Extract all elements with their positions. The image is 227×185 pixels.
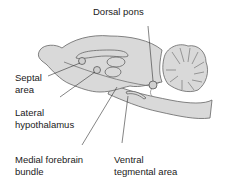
label-vta-line2: tegmental area [114,166,177,178]
label-dorsal-pons: Dorsal pons [93,6,144,18]
label-medial-forebrain-bundle-line1: Medial forebrain [15,154,83,166]
hypothalamus-shape [105,67,121,77]
cerebrum-shape [38,36,162,92]
label-lateral-hypothalamus-line2: hypothalamus [15,119,74,131]
label-vta-line1: Ventral [114,154,177,166]
label-lateral-hypothalamus-line1: Lateral [15,107,74,119]
label-septal-area-line2: area [15,84,42,96]
label-septal-area: Septal area [15,72,42,96]
dorsal-pons-nucleus [149,81,157,89]
label-ventral-tegmental-area: Ventral tegmental area [114,154,177,178]
label-medial-forebrain-bundle-line2: bundle [15,166,83,178]
label-medial-forebrain-bundle: Medial forebrain bundle [15,154,83,178]
label-lateral-hypothalamus: Lateral hypothalamus [15,107,74,131]
thalamus-shape [107,57,125,67]
label-septal-area-line1: Septal [15,72,42,84]
cerebellum-shape [163,45,208,92]
